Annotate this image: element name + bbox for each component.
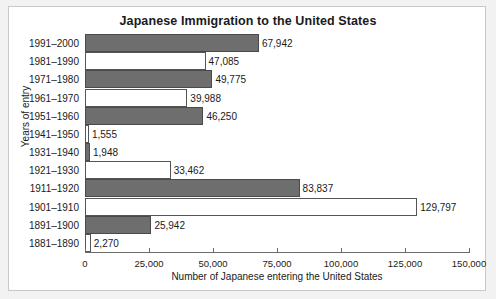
x-axis-tick xyxy=(213,248,214,253)
bar[interactable] xyxy=(85,34,259,52)
x-axis-tick-label: 150,000 xyxy=(452,258,486,269)
bar-value-label: 2,270 xyxy=(91,237,119,248)
bar-row: 1901–1910129,797 xyxy=(85,198,469,216)
bar[interactable] xyxy=(85,89,187,107)
bar-value-label: 129,797 xyxy=(417,201,456,212)
chart-figure: Japanese Immigration to the United State… xyxy=(8,6,486,291)
bar[interactable] xyxy=(85,216,151,234)
bar[interactable] xyxy=(85,52,206,70)
bar-row: 1961–197039,988 xyxy=(85,89,469,107)
bar[interactable] xyxy=(85,70,212,88)
bar-value-label: 49,775 xyxy=(212,74,246,85)
bar-row: 1951–196046,250 xyxy=(85,107,469,125)
x-axis-tick xyxy=(341,248,342,253)
x-axis-tick xyxy=(469,248,470,253)
x-axis-tick xyxy=(149,248,150,253)
category-label: 1991–2000 xyxy=(29,38,79,49)
category-label: 1981–1990 xyxy=(29,56,79,67)
bar-row: 1891–190025,942 xyxy=(85,216,469,234)
bar[interactable] xyxy=(85,161,171,179)
bar-value-label: 1,948 xyxy=(90,147,118,158)
x-axis-tick-label: 25,000 xyxy=(134,258,163,269)
bar-value-label: 83,837 xyxy=(300,183,334,194)
category-label: 1891–1900 xyxy=(29,219,79,230)
x-axis-tick-label: 100,000 xyxy=(324,258,358,269)
x-axis-title: Number of Japanese entering the United S… xyxy=(85,271,469,282)
bar-value-label: 67,942 xyxy=(259,38,293,49)
bar-value-label: 25,942 xyxy=(151,219,185,230)
bar-row: 1981–199047,085 xyxy=(85,52,469,70)
bar-value-label: 39,988 xyxy=(187,92,221,103)
category-label: 1931–1940 xyxy=(29,147,79,158)
x-axis-tick xyxy=(405,248,406,253)
bar-value-label: 46,250 xyxy=(203,110,237,121)
bar[interactable] xyxy=(85,179,300,197)
x-axis-tick-label: 50,000 xyxy=(198,258,227,269)
x-axis-tick xyxy=(85,248,86,253)
category-label: 1971–1980 xyxy=(29,74,79,85)
category-label: 1921–1930 xyxy=(29,165,79,176)
category-label: 1911–1920 xyxy=(30,183,79,194)
bar-row: 1931–19401,948 xyxy=(85,143,469,161)
bar-row: 1971–198049,775 xyxy=(85,70,469,88)
category-label: 1961–1970 xyxy=(29,92,79,103)
x-axis-tick xyxy=(277,248,278,253)
category-label: 1901–1910 xyxy=(29,201,79,212)
category-label: 1941–1950 xyxy=(29,128,79,139)
x-axis-tick-label: 125,000 xyxy=(388,258,422,269)
bar[interactable] xyxy=(85,198,417,216)
chart-title: Japanese Immigration to the United State… xyxy=(9,14,487,28)
bar[interactable] xyxy=(85,107,203,125)
category-label: 1951–1960 xyxy=(29,110,79,121)
x-axis-tick-label: 75,000 xyxy=(262,258,291,269)
bar-row: 1911–192083,837 xyxy=(85,179,469,197)
bar-row: 1991–200067,942 xyxy=(85,34,469,52)
x-axis-tick-label: 0 xyxy=(82,258,87,269)
bar-row: 1921–193033,462 xyxy=(85,161,469,179)
bar-value-label: 33,462 xyxy=(171,165,205,176)
bar-row: 1941–19501,555 xyxy=(85,125,469,143)
bar-value-label: 47,085 xyxy=(206,56,240,67)
bar-value-label: 1,555 xyxy=(89,128,117,139)
plot-area: 1991–200067,9421981–199047,0851971–19804… xyxy=(85,34,469,252)
x-axis-line xyxy=(85,252,469,253)
category-label: 1881–1890 xyxy=(29,237,79,248)
